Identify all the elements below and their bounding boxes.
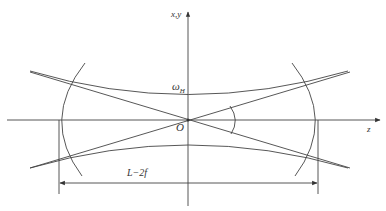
origin-point: [187, 119, 190, 122]
beam-waist-label: ωH: [172, 80, 185, 95]
vertical-axis-label: x,y: [171, 9, 181, 19]
origin-label: O: [176, 121, 184, 133]
beam-waist-subscript: H: [180, 87, 185, 95]
dimension-label: L−2f: [127, 167, 147, 178]
lower-beam-envelope: [30, 145, 348, 168]
horizontal-axis-label: z: [367, 124, 371, 134]
resonator-diagram: [0, 0, 386, 211]
beam-waist-symbol: ω: [172, 80, 180, 92]
